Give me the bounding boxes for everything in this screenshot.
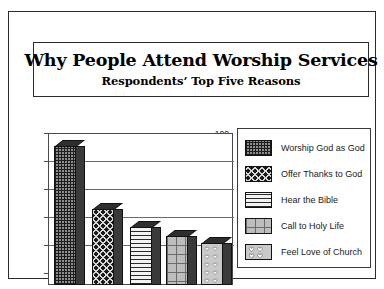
legend-item-label: Worship God as God (281, 143, 365, 153)
bars-layer (29, 122, 229, 287)
bar-face (54, 146, 76, 285)
heart-icon (246, 245, 271, 259)
legend-item-label: Hear the Bible (281, 195, 338, 205)
bar-side-face (76, 146, 85, 285)
bar-offer-thanks-to-god (92, 209, 114, 285)
bar-hear-the-bible (130, 227, 152, 285)
chart-subtitle: Respondents’ Top Five Reasons (102, 74, 301, 88)
bar-side-face (188, 236, 197, 285)
plot-area: 100 80 60 40 20 0 (29, 122, 229, 287)
legend-swatch-icon (245, 244, 272, 260)
bar-face (201, 243, 223, 285)
bar-face (130, 227, 152, 285)
legend-item-hear-the-bible: Hear the Bible (238, 187, 370, 213)
heart-icon (202, 244, 222, 284)
scan-artifact (0, 0, 384, 8)
legend-item-call-to-holy-life: Call to Holy Life (238, 213, 370, 239)
bar-feel-love-of-church (201, 243, 223, 285)
bar-call-to-holy-life (166, 236, 188, 285)
legend-swatch-icon (245, 192, 272, 208)
legend-swatch-icon (245, 218, 272, 234)
bar-worship-god-as-god (54, 146, 76, 285)
bar-face (166, 236, 188, 285)
bar-side-face (114, 209, 123, 285)
legend-item-worship-god-as-god: Worship God as God (238, 135, 370, 161)
chart-title: Why People Attend Worship Services (24, 51, 377, 69)
chart-screenshot: Why People Attend Worship Services Respo… (0, 0, 384, 289)
legend-item-feel-love-of-church: Feel Love of Church (238, 239, 370, 265)
outer-frame: Why People Attend Worship Services Respo… (8, 11, 376, 279)
bar-face (92, 209, 114, 285)
legend-item-label: Call to Holy Life (281, 221, 344, 231)
title-box: Why People Attend Worship Services Respo… (33, 42, 369, 97)
bar-side-face (223, 243, 232, 285)
legend-item-label: Offer Thanks to God (281, 169, 362, 179)
legend-item-label: Feel Love of Church (281, 247, 362, 257)
legend-swatch-icon (245, 166, 272, 182)
bar-side-face (152, 227, 161, 285)
legend-item-offer-thanks-to-god: Offer Thanks to God (238, 161, 370, 187)
legend-swatch-icon (245, 140, 272, 156)
legend: Worship God as God Offer Thanks to God H… (237, 128, 371, 268)
